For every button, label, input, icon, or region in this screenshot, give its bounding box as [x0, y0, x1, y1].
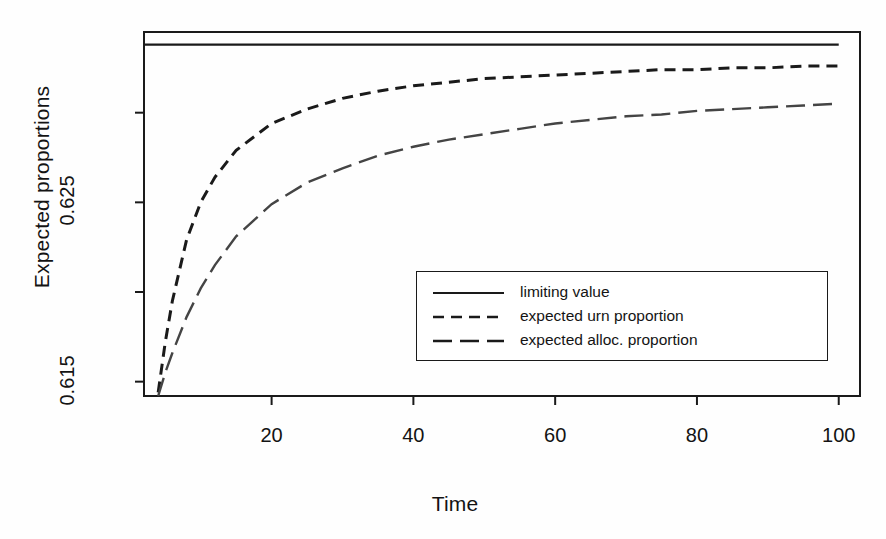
legend-item-label: limiting value [520, 283, 610, 301]
legend-item-label: expected alloc. proportion [520, 331, 698, 349]
chart-figure: Expected proportions Time 0.6250.615 204… [0, 0, 886, 539]
plot-area [0, 0, 886, 539]
legend-item-label: expected urn proportion [520, 307, 684, 325]
